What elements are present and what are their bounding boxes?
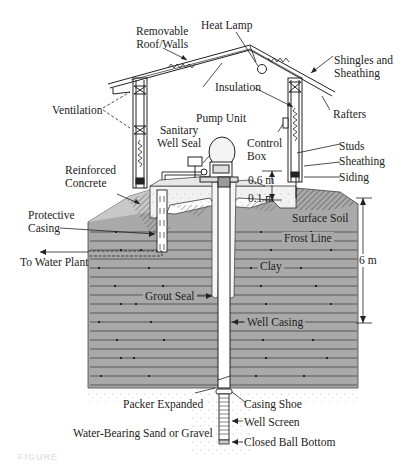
control-box bbox=[283, 118, 288, 128]
label-line: Well Seal bbox=[157, 137, 201, 150]
label-grout-seal: Grout Seal bbox=[143, 290, 197, 303]
label-line: Removable bbox=[136, 25, 188, 38]
label-control-box: Control Box bbox=[247, 137, 282, 163]
left-wall bbox=[133, 78, 147, 188]
label-insulation: Insulation bbox=[215, 81, 261, 94]
label-reinforced-concrete: Reinforced Concrete bbox=[65, 164, 116, 190]
label-line: Protective bbox=[28, 209, 75, 222]
label-removable-roof-walls: Removable Roof/Walls bbox=[136, 25, 188, 51]
label-surface-soil: Surface Soil bbox=[290, 212, 351, 225]
label-line: Control bbox=[247, 137, 282, 150]
label-closed-ball-bottom: Closed Ball Bottom bbox=[244, 436, 335, 449]
label-sanitary-well-seal: Sanitary Well Seal bbox=[157, 124, 201, 150]
label-dim-0-1m: 0.1 m bbox=[248, 192, 274, 205]
label-siding: Siding bbox=[339, 171, 369, 184]
label-sheathing: Sheathing bbox=[339, 155, 385, 168]
label-line: Roof/Walls bbox=[136, 38, 188, 51]
label-line: Reinforced bbox=[65, 164, 116, 177]
label-6m: 6 m bbox=[359, 254, 377, 267]
label-ventilation: Ventilation bbox=[52, 104, 102, 117]
label-to-water-plant: To Water Plant bbox=[20, 256, 88, 269]
label-casing-shoe: Casing Shoe bbox=[244, 398, 302, 411]
label-line: Shingles and bbox=[334, 54, 393, 67]
label-rafters: Rafters bbox=[333, 108, 366, 121]
label-clay: Clay bbox=[258, 260, 284, 273]
label-frost-line: Frost Line bbox=[282, 232, 334, 245]
label-studs: Studs bbox=[339, 140, 365, 153]
label-line: Concrete bbox=[65, 177, 116, 190]
label-line: Sanitary bbox=[157, 124, 201, 137]
label-heat-lamp: Heat Lamp bbox=[201, 19, 252, 32]
label-line: Box bbox=[247, 150, 282, 163]
label-pump-unit: Pump Unit bbox=[196, 112, 246, 125]
label-water-bearing: Water-Bearing Sand or Gravel bbox=[73, 427, 213, 440]
label-line: Casing bbox=[28, 222, 75, 235]
label-shingles-sheathing: Shingles and Sheathing bbox=[334, 54, 393, 80]
right-wall bbox=[288, 78, 302, 198]
label-packer-expanded: Packer Expanded bbox=[123, 398, 203, 411]
label-protective-casing: Protective Casing bbox=[28, 209, 75, 235]
label-well-casing: Well Casing bbox=[245, 316, 305, 329]
label-dim-0-6m: 0.6 m bbox=[248, 174, 274, 187]
figure-caption: FIGURE bbox=[18, 452, 58, 462]
label-well-screen: Well Screen bbox=[244, 416, 300, 429]
label-line: Sheathing bbox=[334, 67, 393, 80]
